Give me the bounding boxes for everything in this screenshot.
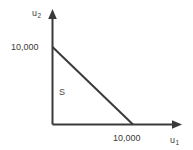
x-axis-arrow-icon — [172, 120, 182, 129]
set-boundary-line — [53, 47, 134, 125]
y-axis-arrow-icon — [48, 9, 57, 19]
y-axis-label: u2 — [32, 9, 41, 18]
x-axis-label: u1 — [170, 136, 179, 145]
feasible-set-label: S — [59, 88, 65, 97]
y-axis-label-subscript: 2 — [37, 12, 41, 19]
y-axis-tick-label: 10,000 — [11, 43, 39, 52]
x-axis-tick-label: 10,000 — [113, 134, 141, 143]
x-axis-label-subscript: 1 — [175, 139, 179, 146]
figure-canvas — [0, 0, 193, 150]
budget-set-figure: u2 10,000 10,000 u1 S — [0, 0, 193, 150]
